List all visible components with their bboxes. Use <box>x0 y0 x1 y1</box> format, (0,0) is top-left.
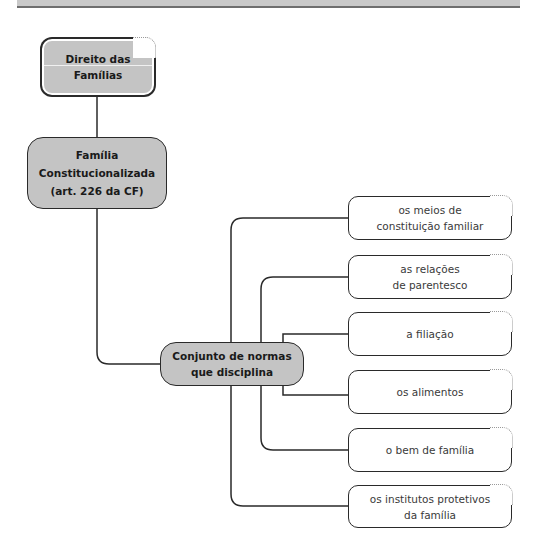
leaf-node-bem-de-familia: o bem de família <box>348 428 512 472</box>
leaf-node-alimentos: os alimentos <box>348 370 512 414</box>
connector-hub-leaf1 <box>231 218 348 342</box>
leaf-label-line2: constituição familiar <box>377 218 484 234</box>
hub-node-conjunto-de-normas: Conjunto de normas que disciplina <box>160 342 304 386</box>
dotted-corner-decoration <box>490 195 513 216</box>
connector-level1-hub <box>97 209 160 364</box>
leaf-label-line1: os meios de <box>377 202 484 218</box>
leaf-label-line2: de parentesco <box>392 277 467 293</box>
dotted-corner-decoration <box>490 311 513 332</box>
hub-label-line1: Conjunto de normas <box>172 348 291 364</box>
level1-label-line2: Constitucionalizada <box>39 164 155 182</box>
hub-label-line2: que disciplina <box>172 364 291 380</box>
connector-hub-leaf4 <box>283 386 348 395</box>
dotted-corner-decoration <box>490 254 513 275</box>
leaf-label-line1: a filiação <box>406 326 453 342</box>
leaf-label-line1: os institutos protetivos <box>370 491 490 507</box>
dotted-corner-decoration <box>490 427 513 448</box>
connector-hub-leaf3 <box>283 334 348 342</box>
dotted-corner-decoration <box>490 484 513 505</box>
leaf-node-meios-de-constituicao: os meios de constituição familiar <box>348 196 512 240</box>
leaf-label-line2: da família <box>370 507 490 523</box>
root-node-direito-das-familias: Direito das Famílias <box>42 39 154 95</box>
leaf-label-line1: o bem de família <box>386 442 474 458</box>
root-label-line2: Famílias <box>66 67 131 83</box>
level1-label-line1: Família <box>39 146 155 164</box>
leaf-label-line1: as relações <box>392 261 467 277</box>
connector-hub-leaf6 <box>231 386 348 506</box>
leaf-label-line1: os alimentos <box>397 384 464 400</box>
leaf-node-relacoes-de-parentesco: as relações de parentesco <box>348 255 512 299</box>
dotted-corner-decoration <box>490 369 513 390</box>
root-label-line1: Direito das <box>66 51 131 67</box>
level1-label-line3: (art. 226 da CF) <box>39 182 155 200</box>
leaf-node-institutos-protetivos: os institutos protetivos da família <box>348 485 512 528</box>
connector-hub-leaf2 <box>261 277 348 342</box>
leaf-node-filiacao: a filiação <box>348 312 512 356</box>
dotted-corner-decoration <box>133 37 156 58</box>
level1-node-familia-constitucionalizada: Família Constitucionalizada (art. 226 da… <box>27 137 167 209</box>
